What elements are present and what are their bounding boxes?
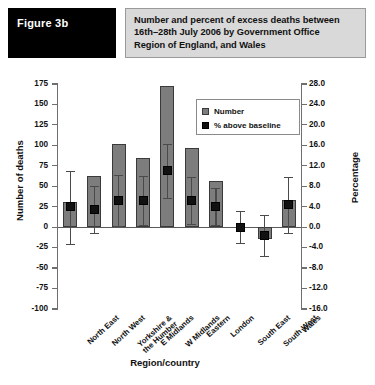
error-bar-cap <box>211 188 220 189</box>
percent-marker <box>284 200 293 209</box>
y-axis-right-tick-label: -8.0 <box>309 264 339 272</box>
error-bar-cap <box>114 175 123 176</box>
y-axis-right-tick-label: 24.0 <box>309 100 339 108</box>
y-axis-left-tick-label: 125 <box>22 121 48 129</box>
error-bar-cap <box>236 243 245 244</box>
y-axis-left-tick-label: 175 <box>22 80 48 88</box>
y-axis-left-tick <box>52 206 58 207</box>
error-bar-cap <box>139 176 148 177</box>
y-axis-right-tick <box>301 83 307 84</box>
percent-marker <box>66 202 75 211</box>
percent-marker <box>236 223 245 232</box>
y-axis-left-tick <box>52 145 58 146</box>
y-axis-left-tick-label: 150 <box>22 100 48 108</box>
y-axis-left-tick-label: 75 <box>22 162 48 170</box>
y-axis-left-tick-label: -75 <box>22 284 48 292</box>
y-axis-left-tick-label: 25 <box>22 203 48 211</box>
y-axis-right-tick <box>301 104 307 105</box>
y-axis-right-tick-label: 16.0 <box>309 141 339 149</box>
chart-legend: Number % above baseline <box>196 99 300 135</box>
y-axis-right-tick <box>301 186 307 187</box>
y-axis-left-tick <box>52 288 58 289</box>
y-axis-left-tick-label: 0 <box>22 223 48 231</box>
error-bar-cap <box>187 224 196 225</box>
y-axis-left-tick-label: 50 <box>22 182 48 190</box>
y-axis-right-tick-label: 4.0 <box>309 203 339 211</box>
error-bar-cap <box>260 256 269 257</box>
y-axis-right-tick-label: 20.0 <box>309 121 339 129</box>
error-bar-cap <box>163 144 172 145</box>
y-axis-left-tick <box>52 267 58 268</box>
chart-plot-area: -100-75-50-250255075100125150175 -16.0-1… <box>0 0 375 385</box>
y-axis-right-tick-label: -12.0 <box>309 284 339 292</box>
y-axis-right-tick <box>301 165 307 166</box>
y-axis-left-title: Number of deaths <box>14 121 25 241</box>
percent-marker <box>114 196 123 205</box>
percent-marker <box>211 202 220 211</box>
figure-root: Figure 3b Number and percent of excess d… <box>0 0 375 385</box>
y-axis-right-tick <box>301 124 307 125</box>
y-axis-left-tick <box>52 83 58 84</box>
percent-marker <box>90 205 99 214</box>
legend-swatch-percent-icon <box>202 122 209 129</box>
error-bar-cap <box>66 244 75 245</box>
y-axis-left-tick-label: 100 <box>22 141 48 149</box>
y-axis-left-tick-label: -100 <box>22 305 48 313</box>
y-axis-left-tick <box>52 227 58 228</box>
x-axis-tick-label: Wales <box>301 314 323 335</box>
error-bar-cap <box>260 215 269 216</box>
y-axis-left-tick <box>52 308 58 309</box>
legend-label-number: Number <box>214 107 244 116</box>
error-bar-cap <box>284 177 293 178</box>
percent-marker <box>163 166 172 175</box>
error-bar-cap <box>187 177 196 178</box>
y-axis-right-tick <box>301 288 307 289</box>
legend-entry-percent: % above baseline <box>202 118 299 132</box>
error-bar-cap <box>163 198 172 199</box>
y-axis-right-tick <box>301 206 307 207</box>
y-axis-left-tick <box>52 247 58 248</box>
y-axis-right-line <box>301 83 302 310</box>
y-axis-right-tick-label: 12.0 <box>309 162 339 170</box>
y-axis-left-tick-label: -50 <box>22 264 48 272</box>
y-axis-left-tick <box>52 165 58 166</box>
y-axis-right-tick-label: 28.0 <box>309 80 339 88</box>
error-bar-cap <box>66 171 75 172</box>
y-axis-right-tick <box>301 267 307 268</box>
y-axis-left-tick-label: -25 <box>22 243 48 251</box>
error-bar-cap <box>114 226 123 227</box>
error-bar-cap <box>284 233 293 234</box>
y-axis-right-tick <box>301 145 307 146</box>
legend-swatch-number-icon <box>202 108 209 115</box>
y-axis-right-tick-label: -16.0 <box>309 305 339 313</box>
y-axis-left-line <box>57 83 58 310</box>
error-bar-cap <box>90 186 99 187</box>
percent-marker <box>187 196 196 205</box>
legend-label-percent: % above baseline <box>214 121 281 130</box>
error-bar-cap <box>211 225 220 226</box>
y-axis-right-tick <box>301 227 307 228</box>
y-axis-right-tick <box>301 247 307 248</box>
percent-marker <box>139 196 148 205</box>
y-axis-right-tick-label: 8.0 <box>309 182 339 190</box>
y-axis-right-tick-label: -4.0 <box>309 243 339 251</box>
y-axis-left-tick <box>52 104 58 105</box>
x-axis-title: Region/country <box>0 357 330 368</box>
percent-marker <box>260 231 269 240</box>
y-axis-left-tick <box>52 186 58 187</box>
error-bar-cap <box>236 211 245 212</box>
x-axis-tick-label: London <box>229 314 256 339</box>
y-axis-right-tick <box>301 308 307 309</box>
error-bar-cap <box>139 225 148 226</box>
y-axis-right-tick-label: 0.0 <box>309 223 339 231</box>
error-bar-cap <box>90 233 99 234</box>
legend-entry-number: Number <box>202 104 299 118</box>
y-axis-right-title: Percentage <box>349 118 360 238</box>
y-axis-left-tick <box>52 124 58 125</box>
